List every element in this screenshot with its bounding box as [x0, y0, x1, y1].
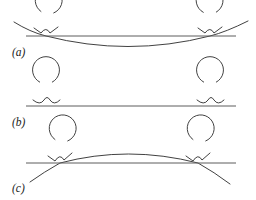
- panel-a-inset-left: [34, 0, 62, 33]
- panel-b-label: (b): [12, 116, 26, 129]
- panel-b-inset-left-cusp: [33, 98, 60, 104]
- panel-b-inset-right-arc: [197, 57, 224, 82]
- panel-c-inset-right-cusp: [186, 153, 210, 161]
- panel-b: (b): [12, 57, 236, 129]
- panel-a-inset-right: [196, 0, 223, 33]
- panel-c-inset-left-arc: [49, 115, 76, 141]
- panel-c-label: (c): [12, 182, 25, 195]
- panel-c-inset-right: [186, 115, 214, 161]
- panel-c-inset-left-cusp: [48, 153, 72, 161]
- figure-container: (a) (b): [0, 0, 256, 200]
- panel-a-inset-right-arc: [196, 0, 223, 12]
- figure-svg: (a) (b): [0, 0, 256, 200]
- panel-c-inset-left: [48, 115, 76, 161]
- panel-a-main-curve: [14, 21, 248, 47]
- panel-b-inset-right-cusp: [197, 98, 224, 104]
- panel-c-main-curve: [30, 154, 230, 184]
- panel-b-inset-left-arc: [33, 57, 60, 82]
- panel-a-inset-left-arc: [35, 0, 62, 13]
- panel-b-inset-right: [197, 57, 225, 103]
- panel-a-inset-right-cusp: [198, 27, 222, 33]
- panel-a-inset-left-cusp: [34, 27, 58, 33]
- panel-b-inset-left: [33, 57, 61, 103]
- panel-a: (a): [12, 0, 248, 59]
- panel-c: (c): [12, 115, 236, 195]
- panel-a-label: (a): [12, 46, 26, 59]
- panel-c-inset-right-arc: [187, 115, 214, 141]
